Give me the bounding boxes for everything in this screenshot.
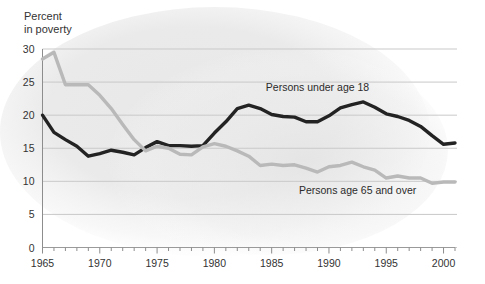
x-tick-label: 2000 [432, 257, 456, 269]
x-axis-tick-labels: 19651970197519801985199019952000 [31, 257, 456, 269]
x-tick-label: 1995 [375, 257, 399, 269]
poverty-rate-line-chart: 051015202530 196519701975198019851990199… [0, 0, 485, 284]
x-tick-label: 1990 [317, 257, 341, 269]
x-tick-label: 1980 [203, 257, 227, 269]
background-wash [0, 7, 448, 257]
series-label: Persons under age 18 [266, 81, 369, 93]
y-tick-label: 15 [23, 142, 35, 154]
chart-canvas: 051015202530 196519701975198019851990199… [0, 0, 485, 284]
y-tick-label: 0 [29, 242, 35, 254]
y-tick-label: 20 [23, 109, 35, 121]
x-tick-label: 1975 [145, 257, 169, 269]
x-tick-label: 1970 [88, 257, 112, 269]
series-label: Persons age 65 and over [299, 184, 417, 196]
y-tick-label: 25 [23, 76, 35, 88]
y-tick-label: 10 [23, 175, 35, 187]
y-axis-title-line2: in poverty [24, 23, 72, 35]
x-tick-label: 1965 [31, 257, 55, 269]
y-tick-label: 30 [23, 43, 35, 55]
y-axis-title-line1: Percent [24, 10, 62, 22]
y-tick-label: 5 [29, 208, 35, 220]
x-tick-label: 1985 [260, 257, 284, 269]
